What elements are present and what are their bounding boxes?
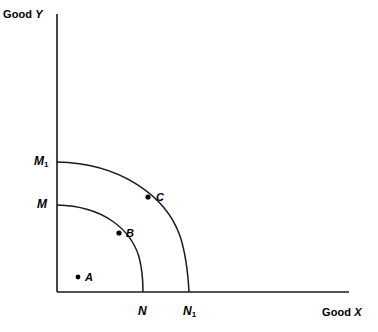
- y-axis-title: Good Y: [3, 9, 43, 20]
- point-a-marker: [76, 275, 81, 280]
- outer-ppf-curve: [57, 162, 189, 292]
- point-c-marker: [145, 194, 150, 199]
- inner-ppf-curve: [57, 205, 143, 292]
- x-axis-title-word: Good: [322, 306, 351, 318]
- y-tick-m-base: M: [37, 197, 47, 211]
- point-c-label: C: [156, 192, 164, 203]
- x-tick-label-n1: N1: [183, 305, 196, 317]
- y-tick-label-m1: M1: [34, 155, 48, 167]
- x-axis-title: Good X: [322, 307, 362, 318]
- x-tick-n1-subscript: 1: [192, 310, 196, 319]
- point-a-label: A: [85, 272, 93, 283]
- x-tick-label-n: N: [138, 305, 147, 317]
- point-b-marker: [116, 230, 121, 235]
- y-tick-m1-base: M: [34, 154, 44, 168]
- point-b-label: B: [126, 228, 134, 239]
- x-tick-n1-base: N: [183, 304, 192, 318]
- y-axis-title-var: Y: [35, 8, 42, 20]
- y-axis-title-word: Good: [3, 8, 32, 20]
- x-tick-n-base: N: [138, 304, 147, 318]
- y-tick-m1-subscript: 1: [44, 160, 48, 169]
- ppf-chart-canvas: [0, 0, 378, 332]
- ppf-diagram: Good Y Good X M1 M N N1 A B C: [0, 0, 378, 332]
- x-axis-title-var: X: [354, 306, 361, 318]
- y-tick-label-m: M: [37, 198, 47, 210]
